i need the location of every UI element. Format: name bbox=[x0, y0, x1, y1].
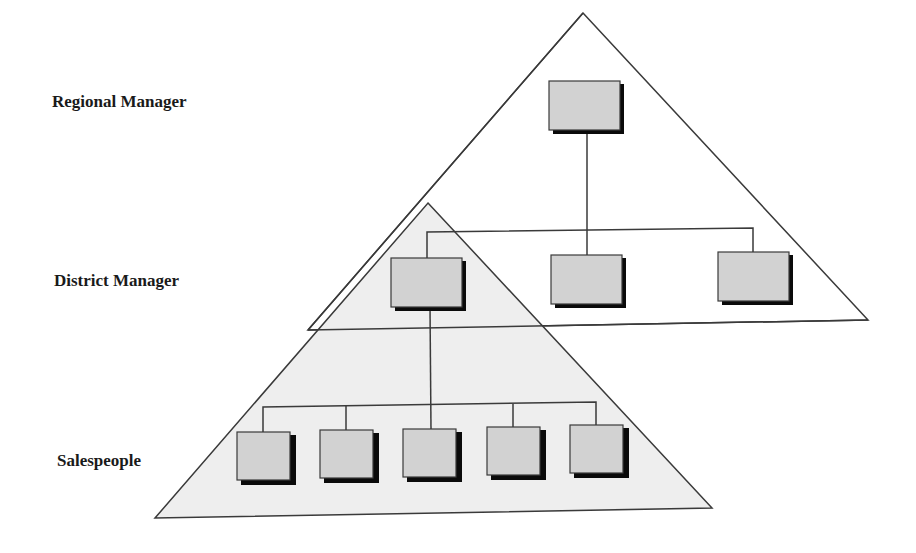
district-manager-box-2 bbox=[551, 255, 626, 308]
salesperson-box-3 bbox=[403, 429, 462, 482]
org-hierarchy-diagram: Regional Manager District Manager Salesp… bbox=[0, 0, 916, 553]
district-manager-label: District Manager bbox=[54, 271, 179, 291]
regional-manager-label: Regional Manager bbox=[52, 92, 187, 112]
regional-manager-box bbox=[549, 81, 624, 134]
salespeople-label: Salespeople bbox=[57, 451, 141, 471]
salesperson-box-2 bbox=[320, 430, 379, 483]
salesperson-box-1 bbox=[237, 432, 296, 485]
district-manager-box-1 bbox=[391, 258, 466, 311]
salesperson-box-4 bbox=[487, 427, 546, 480]
salesperson-box-5 bbox=[570, 425, 629, 478]
district-manager-box-3 bbox=[718, 252, 793, 305]
